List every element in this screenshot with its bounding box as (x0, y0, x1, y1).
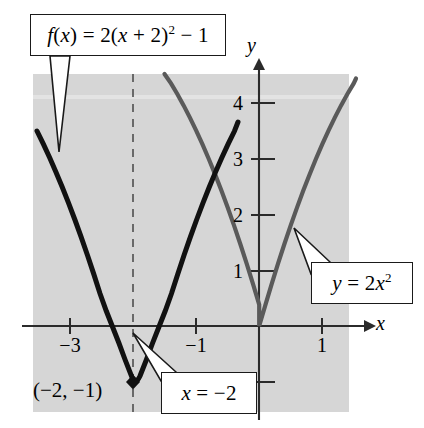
x-tick-label-1: 1 (310, 334, 334, 357)
x-tick-label--1: −1 (182, 334, 210, 357)
y-tick-label-2: 2 (228, 204, 248, 227)
callout-axis-of-symmetry: x = −2 (161, 372, 257, 414)
y-axis-arrow (253, 58, 265, 70)
vertex-coordinate-label: (−2, −1) (33, 378, 102, 403)
graph-figure (0, 0, 424, 428)
y-tick-label-4: 4 (228, 92, 248, 115)
callout-y-equals-2x-squared-text: y = 2x2 (332, 273, 391, 294)
callout-f-of-x-text: f(x) = 2(x + 2)2 − 1 (47, 25, 209, 46)
y-tick-label-1: 1 (228, 260, 248, 283)
y-tick-label-3: 3 (228, 148, 248, 171)
y-axis-label: y (247, 34, 256, 57)
callout-f-of-x: f(x) = 2(x + 2)2 − 1 (30, 14, 226, 56)
callout-y-equals-2x-squared: y = 2x2 (311, 262, 413, 304)
x-tick-label--3: −3 (56, 334, 84, 357)
callout-axis-of-symmetry-text: x = −2 (181, 383, 236, 404)
scan-band-upper (33, 95, 349, 99)
x-axis-arrow (364, 320, 376, 332)
x-axis-label: x (376, 312, 385, 335)
